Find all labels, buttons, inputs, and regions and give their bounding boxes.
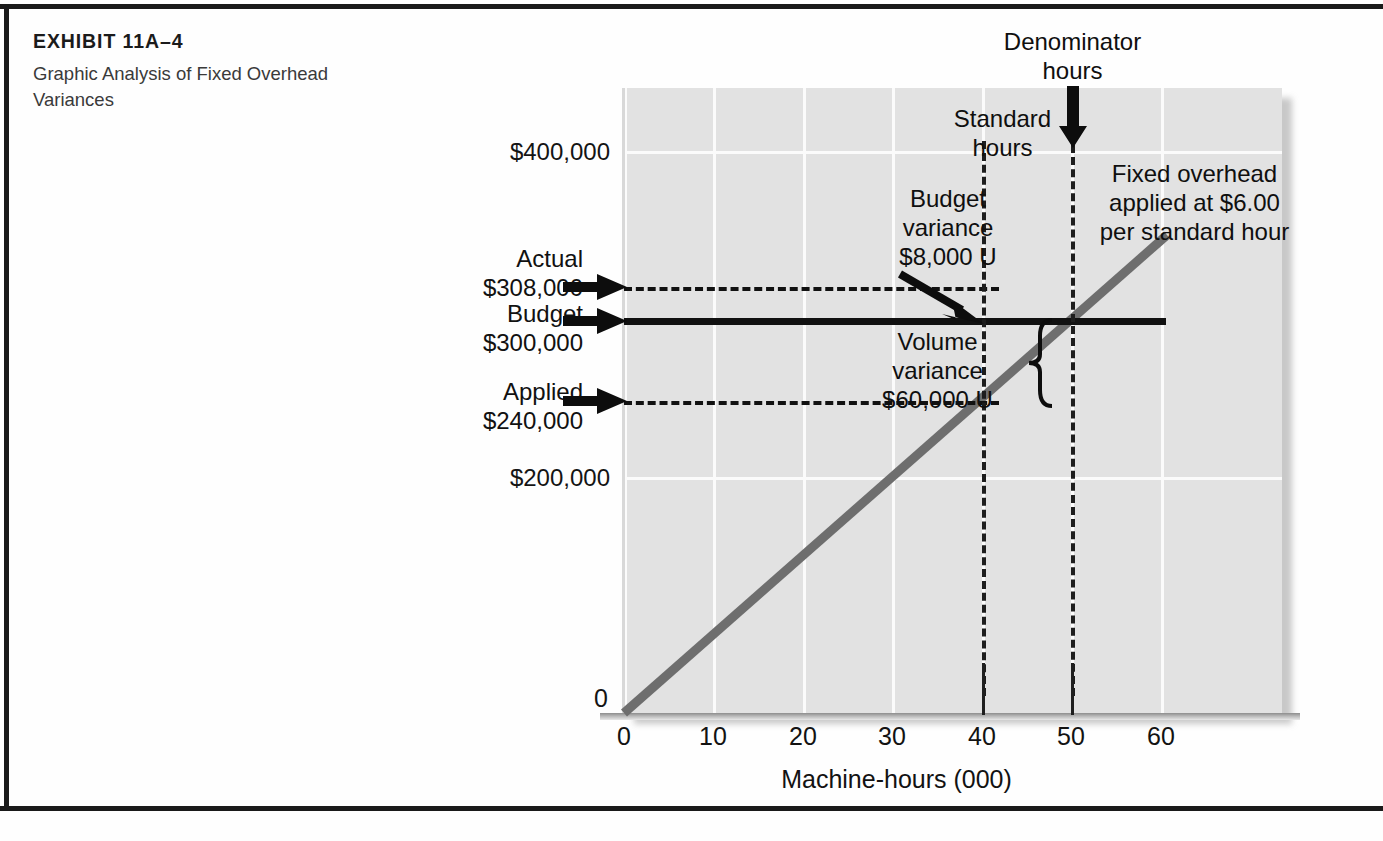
left-rule [4, 4, 9, 811]
x-tick-label-50: 50 [1057, 722, 1085, 751]
volume-variance-line-3: $60,000 U [845, 386, 1030, 415]
budget-cost-line [624, 318, 1166, 325]
actual-arrow-icon [563, 271, 629, 305]
x-axis-tick-labels: 0 10 20 30 40 50 60 [624, 722, 1184, 756]
budget-variance-line-2: variance [858, 214, 1038, 243]
x-tick-label-60: 60 [1147, 722, 1175, 751]
fixed-overhead-line-1: Fixed overhead [1092, 160, 1297, 189]
standard-hours-line-2: hours [900, 134, 1105, 163]
standard-hours-annotation: Standard hours [900, 105, 1105, 163]
exhibit-caption: EXHIBIT 11A–4 Graphic Analysis of Fixed … [33, 30, 363, 114]
denominator-hours-annotation: Denominator hours [965, 28, 1180, 86]
volume-variance-line-1: Volume [845, 328, 1030, 357]
x-tick-label-40: 40 [968, 722, 996, 751]
exhibit-title: Graphic Analysis of Fixed Overhead Varia… [33, 61, 363, 114]
budget-variance-arrow-icon [896, 268, 992, 330]
standard-hours-line-1: Standard [900, 105, 1105, 134]
tick-mark-50 [1071, 663, 1074, 715]
denominator-hours-line-1: Denominator [965, 28, 1180, 57]
budget-variance-annotation: Budget variance $8,000 U [858, 185, 1038, 271]
budget-variance-line-1: Budget [858, 185, 1038, 214]
top-rule [0, 4, 1383, 9]
fixed-overhead-line-2: applied at $6.00 [1092, 189, 1297, 218]
budget-arrow-icon [563, 305, 629, 339]
gridline-horizontal-200000 [624, 477, 1282, 480]
volume-variance-annotation: Volume variance $60,000 U [845, 328, 1030, 414]
actual-label: Actual [483, 245, 583, 274]
y-tick-label-0: 0 [594, 684, 608, 713]
tick-mark-40 [982, 663, 985, 715]
denominator-hours-marker [1071, 145, 1075, 696]
exhibit-number: EXHIBIT 11A–4 [33, 30, 363, 53]
x-axis-title: Machine-hours (000) [624, 765, 1169, 794]
y-tick-label-400000: $400,000 [510, 138, 610, 166]
fixed-overhead-line-3: per standard hour [1092, 218, 1297, 247]
volume-variance-line-2: variance [845, 357, 1030, 386]
bottom-rule [0, 806, 1383, 811]
x-tick-label-10: 10 [699, 722, 727, 751]
fixed-overhead-rate-annotation: Fixed overhead applied at $6.00 per stan… [1092, 160, 1297, 246]
volume-variance-brace-icon [1026, 318, 1058, 408]
exhibit-figure: EXHIBIT 11A–4 Graphic Analysis of Fixed … [0, 0, 1383, 841]
y-tick-label-200000: $200,000 [510, 464, 610, 492]
x-tick-label-0: 0 [617, 722, 631, 751]
x-axis-line [600, 713, 1300, 720]
applied-arrow-icon [563, 385, 629, 419]
denominator-hours-line-2: hours [965, 57, 1180, 86]
x-tick-label-30: 30 [878, 722, 906, 751]
x-tick-label-20: 20 [789, 722, 817, 751]
